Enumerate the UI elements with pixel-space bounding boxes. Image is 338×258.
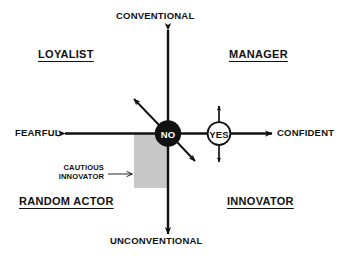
quadrant-diagram: NO YES CONVENTIONAL UNCONVENTIONAL FEARF… bbox=[0, 0, 338, 258]
axis-label-conventional: CONVENTIONAL bbox=[116, 11, 194, 21]
quadrant-label-manager: MANAGER bbox=[229, 49, 288, 61]
axis-label-unconventional: UNCONVENTIONAL bbox=[110, 236, 203, 246]
quadrant-label-innovator: INNOVATOR bbox=[227, 196, 294, 208]
no-node-label: NO bbox=[161, 129, 176, 140]
axis-label-confident: CONFIDENT bbox=[277, 128, 334, 138]
axis-label-fearful: FEARFUL bbox=[15, 128, 61, 138]
quadrant-label-random-actor: RANDOM ACTOR bbox=[19, 196, 114, 208]
diagonal-arrow-up-left bbox=[134, 99, 159, 125]
callout-line-1: CAUTIOUS bbox=[42, 163, 104, 172]
callout-line-2: INNOVATOR bbox=[42, 172, 104, 181]
diagonal-arrow-down-right bbox=[177, 142, 195, 161]
quadrant-label-loyalist: LOYALIST bbox=[38, 49, 94, 61]
cautious-innovator-callout: CAUTIOUS INNOVATOR bbox=[42, 163, 104, 182]
yes-node-label: YES bbox=[209, 129, 229, 140]
